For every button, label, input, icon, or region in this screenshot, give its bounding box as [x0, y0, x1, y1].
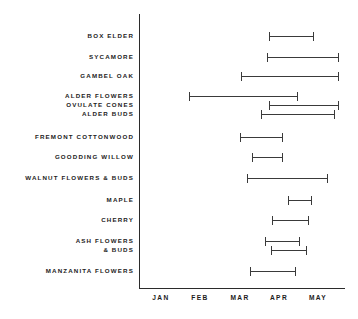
range-bar-line [261, 114, 334, 115]
range-bar [265, 237, 300, 246]
range-start-cap [189, 92, 190, 101]
range-bar [269, 101, 338, 110]
category-label: CHERRY [101, 216, 134, 223]
range-bar-line [269, 105, 338, 106]
range-start-cap [247, 174, 248, 183]
range-bar-line [240, 137, 284, 138]
range-end-cap [327, 174, 328, 183]
range-end-cap [295, 267, 296, 276]
x-axis-tick-label: JAN [141, 294, 181, 301]
range-bar-line [267, 57, 338, 58]
range-bar-line [272, 220, 309, 221]
range-start-cap [272, 216, 273, 225]
category-label: ALDER FLOWERS [65, 92, 134, 99]
category-label: GAMBEL OAK [80, 72, 134, 79]
category-label: GOODDING WILLOW [55, 153, 134, 160]
range-bar [272, 216, 309, 225]
range-bar [288, 196, 312, 205]
range-end-cap [282, 133, 283, 142]
range-bar-line [241, 76, 338, 77]
range-start-cap [269, 32, 270, 41]
range-bar [267, 53, 338, 62]
x-axis-tick-label: MAR [220, 294, 260, 301]
range-start-cap [250, 267, 251, 276]
range-bar-line [265, 241, 300, 242]
range-bar [252, 153, 283, 162]
range-bar-line [189, 96, 298, 97]
range-bar-line [252, 157, 283, 158]
range-bar [250, 267, 296, 276]
range-start-cap [265, 237, 266, 246]
range-start-cap [269, 101, 270, 110]
range-start-cap [252, 153, 253, 162]
category-label: SYCAMORE [89, 53, 134, 60]
x-axis-tick-label: MAY [298, 294, 338, 301]
range-end-cap [306, 246, 307, 255]
range-bar [240, 133, 284, 142]
range-bar-line [269, 36, 314, 37]
range-end-cap [338, 101, 339, 110]
y-axis-line [139, 14, 140, 288]
range-end-cap [334, 110, 335, 119]
category-label: MANZANITA FLOWERS [46, 267, 134, 274]
x-axis-tick-label: APR [259, 294, 299, 301]
range-start-cap [267, 53, 268, 62]
range-start-cap [271, 246, 272, 255]
range-end-cap [282, 153, 283, 162]
range-bar [261, 110, 334, 119]
range-end-cap [297, 92, 298, 101]
category-label: FREMONT COTTONWOOD [35, 133, 134, 140]
range-end-cap [308, 216, 309, 225]
phenology-range-chart: BOX ELDERSYCAMOREGAMBEL OAKALDER FLOWERS… [0, 0, 358, 319]
x-axis-line [139, 288, 345, 289]
range-bar [247, 174, 328, 183]
range-bar [189, 92, 298, 101]
range-bar [269, 32, 314, 41]
category-label: WALNUT FLOWERS & BUDS [25, 174, 134, 181]
category-label: ASH FLOWERS [76, 237, 134, 244]
range-end-cap [299, 237, 300, 246]
chart-page: BOX ELDERSYCAMOREGAMBEL OAKALDER FLOWERS… [0, 0, 358, 319]
category-label: ALDER BUDS [82, 110, 134, 117]
range-start-cap [241, 72, 242, 81]
range-end-cap [311, 196, 312, 205]
range-bar [271, 246, 308, 255]
range-start-cap [261, 110, 262, 119]
x-axis-tick-label: FEB [180, 294, 220, 301]
range-start-cap [288, 196, 289, 205]
category-label: MAPLE [107, 196, 134, 203]
category-label: BOX ELDER [88, 32, 134, 39]
range-bar-line [247, 178, 328, 179]
range-start-cap [240, 133, 241, 142]
range-bar-line [288, 200, 312, 201]
range-end-cap [338, 72, 339, 81]
range-bar-line [250, 271, 296, 272]
category-label: OVULATE CONES [66, 101, 134, 108]
range-end-cap [313, 32, 314, 41]
range-end-cap [338, 53, 339, 62]
range-bar [241, 72, 338, 81]
range-bar-line [271, 250, 308, 251]
category-label: & BUDS [103, 246, 134, 253]
